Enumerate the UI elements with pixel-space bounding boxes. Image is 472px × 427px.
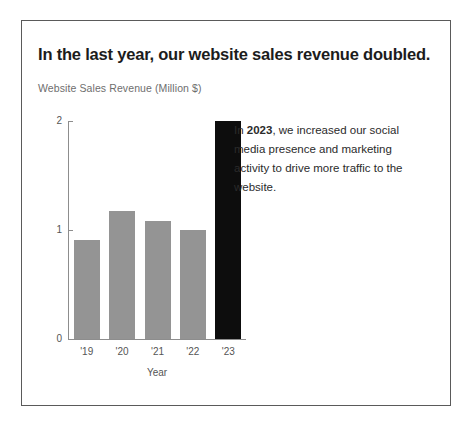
bar: [74, 240, 100, 339]
y-tick-label: 2: [38, 116, 62, 126]
y-tick-mark: [68, 339, 73, 340]
bar: [109, 211, 135, 339]
x-tick-label: '22: [176, 346, 210, 357]
annotation-highlight-year: 2023: [247, 124, 273, 136]
x-tick-label: '23: [211, 346, 245, 357]
bar-series: [69, 121, 246, 339]
bar: [180, 230, 206, 339]
annotation-text: In 2023, we increased our social media p…: [234, 121, 424, 197]
page-title: In the last year, our website sales reve…: [38, 45, 438, 64]
x-tick-label: '21: [141, 346, 175, 357]
x-tick-label: '19: [70, 346, 104, 357]
x-axis-line: [68, 339, 246, 340]
x-axis-title: Year: [68, 367, 246, 378]
chart-subtitle: Website Sales Revenue (Million $): [38, 82, 202, 94]
chart-card: In the last year, our website sales reve…: [21, 20, 451, 406]
y-tick-label: 0: [38, 334, 62, 344]
bar: [145, 221, 171, 339]
annotation-prefix: In: [234, 124, 247, 136]
bar-chart: 012 '19'20'21'22'23 Year: [38, 101, 248, 371]
x-tick-label: '20: [105, 346, 139, 357]
y-tick-label: 1: [38, 225, 62, 235]
